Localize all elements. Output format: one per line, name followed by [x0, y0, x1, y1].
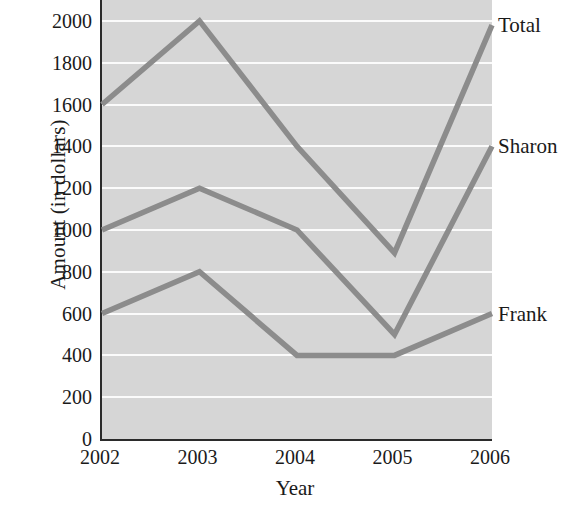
x-tick-label: 2005: [348, 446, 438, 469]
series-label-frank: Frank: [498, 301, 547, 326]
y-tick-label: 1600: [34, 95, 92, 115]
y-axis-tick-labels: 0200400600800100012001400160018002000: [20, 0, 92, 439]
y-tick-label: 1400: [34, 136, 92, 156]
plot-area: [100, 0, 492, 441]
y-tick-label: 400: [34, 345, 92, 365]
y-tick-label: 600: [34, 304, 92, 324]
series-label-total: Total: [498, 13, 541, 38]
x-tick-label: 2006: [445, 446, 535, 469]
y-tick-label: 800: [34, 262, 92, 282]
y-tick-label: 2000: [34, 11, 92, 31]
x-tick-label: 2003: [153, 446, 243, 469]
series-lines: [102, 0, 492, 439]
series-line-frank: [102, 272, 492, 356]
x-tick-label: 2004: [250, 446, 340, 469]
y-tick-label: 1800: [34, 53, 92, 73]
x-axis-title: Year: [100, 476, 490, 501]
series-line-sharon: [102, 146, 492, 334]
x-tick-label: 2002: [55, 446, 145, 469]
series-line-total: [102, 21, 492, 253]
y-tick-label: 200: [34, 387, 92, 407]
line-chart-figure: Amount (in dollars) 02004006008001000120…: [0, 0, 577, 515]
series-label-sharon: Sharon: [498, 134, 558, 159]
y-tick-label: 1200: [34, 178, 92, 198]
y-tick-label: 1000: [34, 220, 92, 240]
